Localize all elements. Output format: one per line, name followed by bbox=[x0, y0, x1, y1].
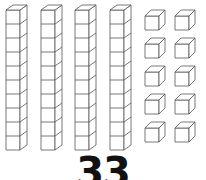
unit-cube-front bbox=[145, 128, 159, 142]
unit-cube-front bbox=[145, 16, 159, 30]
unit-cube-front bbox=[145, 100, 159, 114]
unit-cube-front bbox=[175, 44, 189, 58]
unit-cube-front bbox=[175, 100, 189, 114]
unit-cube-front bbox=[145, 44, 159, 58]
base-ten-blocks bbox=[0, 0, 206, 152]
number-label: 33 bbox=[0, 152, 206, 180]
unit-cube-front bbox=[175, 128, 189, 142]
unit-cube-front bbox=[175, 16, 189, 30]
unit-cube-front bbox=[175, 72, 189, 86]
unit-cube-front bbox=[145, 72, 159, 86]
